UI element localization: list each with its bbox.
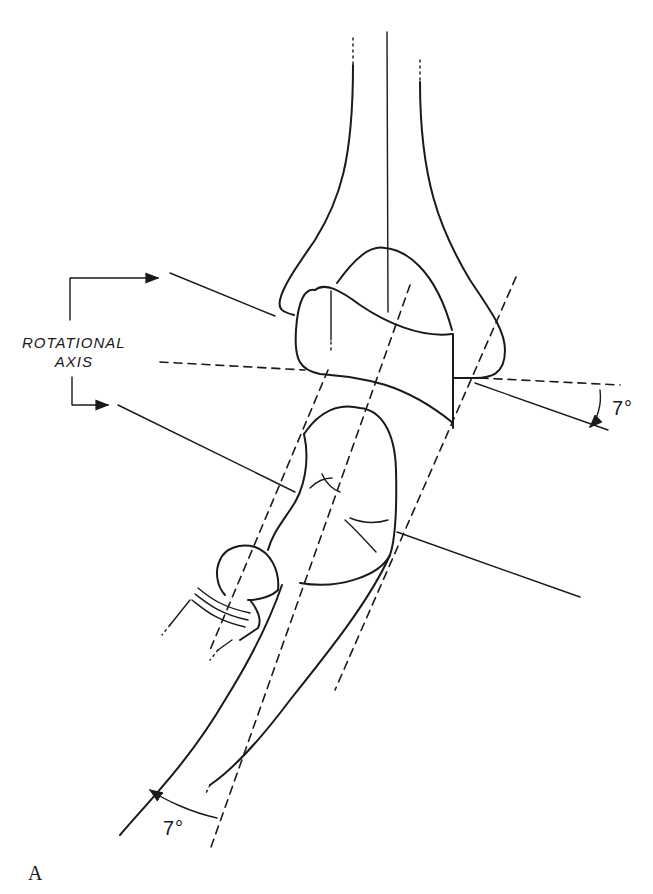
ulna-olecranon [120,406,396,835]
radial-head [162,546,278,660]
rotational-axis-label-line2: AXIS [22,352,126,371]
distal-humerus-trochlea [296,248,478,428]
dashed-axis-lines [160,277,620,850]
upper-angle-label: 7° [612,397,633,420]
panel-label: A [28,862,42,885]
lower-angle-label: 7° [163,817,184,840]
rotational-axis-label-line1: ROTATIONAL [22,333,126,352]
elbow-rotational-axis-diagram [0,0,653,894]
rotational-axis-lines [118,273,608,597]
humerus-shaft [280,32,505,378]
rotational-axis-label: ROTATIONAL AXIS [22,333,126,371]
